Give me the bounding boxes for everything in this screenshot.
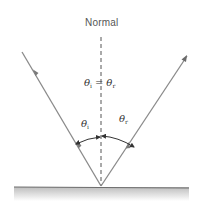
arrow-icon — [182, 55, 188, 62]
reflection-diagram: Normal θi=θr θi θr — [0, 0, 199, 221]
reflected-ray — [101, 55, 187, 186]
subscript-r: r — [112, 82, 115, 89]
subscript-r: r — [125, 118, 128, 125]
normal-label: Normal — [85, 17, 118, 28]
equals-sign: = — [95, 77, 103, 88]
angle-incident-label: θi — [81, 118, 89, 130]
reflection-svg — [0, 0, 199, 221]
incident-ray — [22, 52, 101, 186]
subscript-i: i — [87, 123, 89, 130]
angle-reflected-label: θr — [119, 113, 128, 125]
subscript-i: i — [90, 82, 92, 89]
angle-arc-incident — [76, 137, 100, 144]
reflecting-surface — [14, 187, 189, 201]
angle-equality-label: θi=θr — [84, 77, 115, 89]
